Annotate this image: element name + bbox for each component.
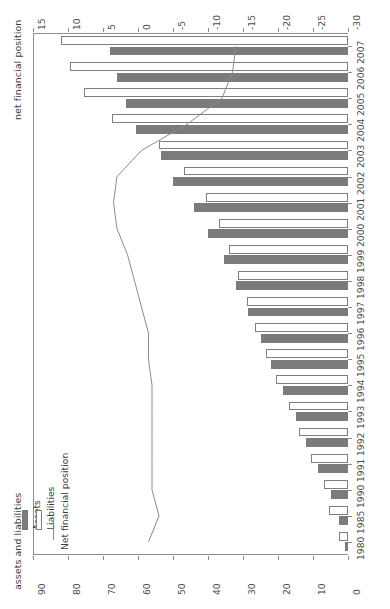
- category-label-1992: 1992: [356, 432, 365, 455]
- category-tick: [348, 542, 352, 543]
- bottom-axis-tick: [68, 556, 69, 560]
- category-label-1995: 1995: [356, 354, 365, 377]
- category-label-2004: 2004: [356, 119, 365, 142]
- category-tick: [348, 281, 352, 282]
- assets-swatch: [22, 510, 28, 530]
- category-tick: [348, 307, 352, 308]
- category-label-1999: 1999: [356, 249, 365, 272]
- category-label-1997: 1997: [356, 302, 365, 325]
- bottom-axis-tick-label: 0: [352, 589, 361, 595]
- bottom-axis-tick-label: 50: [177, 583, 186, 595]
- bottom-axis-tick-label: 80: [72, 583, 81, 595]
- category-label-1996: 1996: [356, 328, 365, 351]
- category-tick: [348, 255, 352, 256]
- top-axis-tick-label: 5: [107, 24, 116, 30]
- category-label-1998: 1998: [356, 276, 365, 299]
- bottom-axis-tick-label: 70: [107, 583, 116, 595]
- category-tick: [348, 438, 352, 439]
- bottom-axis-tick-label: 20: [282, 583, 291, 595]
- category-label-2001: 2001: [356, 197, 365, 220]
- top-axis-tick: [313, 28, 314, 32]
- category-tick: [348, 203, 352, 204]
- category-tick: [348, 385, 352, 386]
- top-axis-tick: [138, 28, 139, 32]
- category-label-1993: 1993: [356, 406, 365, 429]
- category-tick: [348, 72, 352, 73]
- category-tick: [348, 490, 352, 491]
- top-axis-title: net financial position: [13, 20, 22, 120]
- bottom-axis-tick-label: 30: [247, 583, 256, 595]
- category-label-2006: 2006: [356, 67, 365, 90]
- bottom-axis-tick: [33, 556, 34, 560]
- top-axis-tick-label: -10: [212, 15, 221, 30]
- top-axis-tick: [103, 28, 104, 32]
- chart-canvas: net financial position assets and liabil…: [0, 0, 390, 609]
- top-axis-tick: [173, 28, 174, 32]
- top-axis-tick: [68, 28, 69, 32]
- category-tick: [348, 516, 352, 517]
- top-axis-tick-label: 15: [37, 18, 46, 30]
- bottom-axis-tick: [243, 556, 244, 560]
- bottom-axis-tick: [138, 556, 139, 560]
- category-label-2007: 2007: [356, 41, 365, 64]
- category-label-2002: 2002: [356, 171, 365, 194]
- top-axis-tick: [208, 28, 209, 32]
- bottom-axis-tick-label: 10: [317, 583, 326, 595]
- liabilities-swatch: [36, 510, 42, 530]
- top-axis-tick-label: 0: [142, 24, 151, 30]
- bottom-axis-title: assets and liabilities: [13, 493, 22, 590]
- top-axis-tick-label: -20: [282, 15, 291, 30]
- net-financial-position-line-swatch: [53, 520, 54, 540]
- category-label-2000: 2000: [356, 223, 365, 246]
- bottom-axis-tick: [348, 556, 349, 560]
- category-tick: [348, 229, 352, 230]
- category-tick: [348, 98, 352, 99]
- legend-label-net-financial-position: Net financial position: [60, 453, 69, 550]
- bottom-axis-tick-label: 90: [37, 583, 46, 595]
- top-axis-tick: [243, 28, 244, 32]
- legend: Assets Liabilities Net financial positio…: [22, 432, 82, 550]
- category-label-2005: 2005: [356, 93, 365, 116]
- bottom-axis-tick: [278, 556, 279, 560]
- category-label-1985: 1985: [356, 510, 365, 533]
- category-tick: [348, 124, 352, 125]
- top-axis-tick-label: -25: [317, 15, 326, 30]
- category-label-2003: 2003: [356, 145, 365, 168]
- top-axis-tick: [33, 28, 34, 32]
- top-axis-tick: [278, 28, 279, 32]
- top-axis-tick: [348, 28, 349, 32]
- category-tick: [348, 464, 352, 465]
- category-label-1994: 1994: [356, 380, 365, 403]
- category-tick: [348, 333, 352, 334]
- category-tick: [348, 411, 352, 412]
- top-axis-tick-label: -5: [177, 21, 186, 30]
- category-label-1991: 1991: [356, 458, 365, 481]
- category-tick: [348, 150, 352, 151]
- bottom-axis-tick-label: 60: [142, 583, 151, 595]
- category-label-1990: 1990: [356, 484, 365, 507]
- category-label-1980: 1980: [356, 537, 365, 560]
- bottom-axis-tick: [173, 556, 174, 560]
- top-axis-tick-label: 10: [72, 18, 81, 30]
- category-tick: [348, 359, 352, 360]
- bottom-axis-tick: [208, 556, 209, 560]
- bottom-axis-tick: [103, 556, 104, 560]
- top-axis-tick-label: -30: [352, 15, 361, 30]
- category-tick: [348, 46, 352, 47]
- bottom-axis-tick: [313, 556, 314, 560]
- category-tick: [348, 177, 352, 178]
- top-axis-tick-label: -15: [247, 15, 256, 30]
- bottom-axis-tick-label: 40: [212, 583, 221, 595]
